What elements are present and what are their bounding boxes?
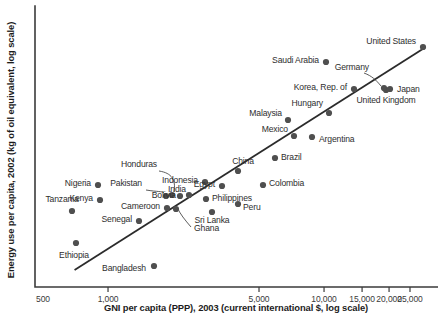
data-point-united-states (420, 44, 426, 50)
point-label-china: China (232, 156, 254, 166)
point-label-ethiopia: Ethiopia (59, 250, 89, 260)
data-point-philippines (203, 196, 209, 202)
data-point-bangladesh (151, 263, 157, 269)
data-point-korea-rep-of (351, 86, 357, 92)
data-point-colombia (260, 182, 266, 188)
point-labels: EthiopiaTanzaniaNigeriaKenyaBangladeshSe… (45, 36, 420, 273)
point-label-bangladesh: Bangladesh (102, 263, 146, 273)
point-label-india: India (168, 184, 186, 194)
point-label-honduras: Honduras (121, 159, 157, 169)
point-label-malaysia: Malaysia (249, 108, 282, 118)
scatter-plot: 5001,0005,00010,00015,00020,00025,000 Et… (0, 0, 438, 331)
data-point-japan (387, 86, 393, 92)
point-label-japan: Japan (397, 84, 420, 94)
data-point-mexico (291, 133, 297, 139)
data-point-tanzania (69, 208, 75, 214)
data-point-nigeria (95, 182, 101, 188)
point-label-korea-rep-of: Korea, Rep. of (294, 82, 348, 92)
point-label-saudi-arabia: Saudi Arabia (272, 55, 319, 65)
data-point-senegal (136, 218, 142, 224)
x-tick-label-25000: 25,000 (397, 294, 423, 304)
point-label-colombia: Colombia (269, 178, 304, 188)
point-label-pakistan: Pakistan (110, 178, 142, 188)
x-axis-title: GNI per capita (PPP), 2003 (current inte… (104, 302, 368, 313)
point-label-cameroon: Cameroon (121, 201, 160, 211)
data-point-ghana (173, 206, 179, 212)
point-label-senegal: Senegal (102, 214, 133, 224)
point-label-kenya: Kenya (69, 193, 93, 203)
data-point-hungary (326, 110, 332, 116)
data-point-china (235, 168, 241, 174)
y-axis-title: Energy use per capita, 2002 (kg of oil e… (5, 22, 16, 279)
x-tick-label-500: 500 (36, 294, 50, 304)
data-point-germany (381, 85, 387, 91)
ghana-leader (177, 207, 191, 227)
point-label-peru: Peru (243, 202, 261, 212)
data-point-egypt (219, 183, 225, 189)
point-label-hungary: Hungary (292, 98, 324, 108)
data-point-argentina (309, 134, 315, 140)
axes (35, 6, 438, 292)
chart-figure: 5001,0005,00010,00015,00020,00025,000 Et… (0, 0, 438, 331)
data-point-india (186, 192, 192, 198)
point-label-sri-lanka: Sri Lanka (195, 215, 230, 225)
point-label-argentina: Argentina (319, 134, 355, 144)
point-label-united-kingdom: United Kingdom (356, 95, 415, 105)
data-point-kenya (97, 197, 103, 203)
data-point-saudi-arabia (323, 59, 329, 65)
point-label-united-states: United States (366, 36, 416, 46)
point-label-germany: Germany (335, 62, 370, 72)
axis-lines (35, 6, 438, 287)
point-label-egypt: Egypt (194, 179, 216, 189)
point-label-mexico: Mexico (262, 124, 289, 134)
point-label-brazil: Brazil (281, 152, 302, 162)
data-point-ethiopia (73, 240, 79, 246)
data-point-malaysia (285, 117, 291, 123)
data-point-brazil (272, 155, 278, 161)
point-label-nigeria: Nigeria (65, 178, 92, 188)
data-point-cameroon (164, 205, 170, 211)
